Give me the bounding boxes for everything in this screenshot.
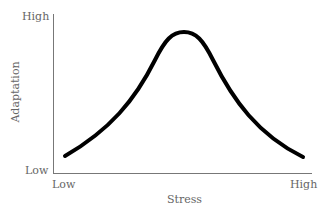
x-tick-high: High xyxy=(290,178,317,191)
y-tick-low: Low xyxy=(25,164,48,177)
y-tick-high: High xyxy=(22,10,49,23)
chart-plot xyxy=(0,0,324,212)
adaptation-curve xyxy=(65,32,303,157)
x-axis-label: Stress xyxy=(167,193,202,206)
x-tick-low: Low xyxy=(52,178,75,191)
stress-adaptation-chart: High Low Low High Stress Adaptation xyxy=(0,0,324,212)
y-axis-label: Adaptation xyxy=(9,61,22,122)
